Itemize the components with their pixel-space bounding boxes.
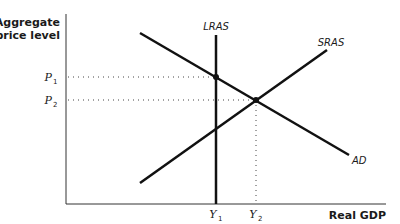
p2-subscript: 2 bbox=[53, 101, 57, 109]
equilibrium-point-2 bbox=[253, 97, 259, 103]
p1-label: P bbox=[44, 71, 53, 84]
y-axis-title-line2: price level bbox=[0, 29, 60, 42]
ad-label: AD bbox=[351, 155, 367, 166]
p1-subscript: 1 bbox=[53, 78, 57, 86]
x-axis-title: Real GDP bbox=[329, 209, 386, 222]
ad-curve bbox=[140, 33, 349, 155]
y-axis-title-line1: Aggregate bbox=[0, 16, 60, 29]
sras-label: SRAS bbox=[318, 37, 345, 48]
lras-label: LRAS bbox=[203, 21, 229, 32]
ad-as-diagram: Aggregate price level Real GDP LRAS SRAS… bbox=[0, 0, 400, 224]
y2-subscript: 2 bbox=[258, 215, 262, 223]
equilibrium-point-1 bbox=[213, 74, 219, 80]
p2-label: P bbox=[44, 94, 53, 107]
sras-curve bbox=[140, 50, 327, 183]
y1-subscript: 1 bbox=[218, 215, 222, 223]
